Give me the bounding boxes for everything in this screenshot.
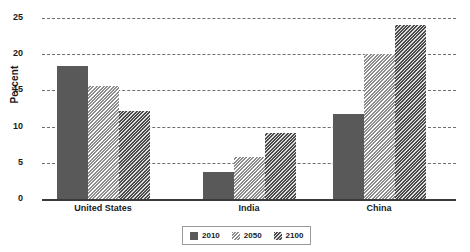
bar-india-2050 — [234, 157, 265, 199]
legend-item-2100[interactable]: 2100 — [274, 232, 304, 240]
y-axis-tick-label: 5 — [1, 158, 23, 167]
legend-label: 2100 — [286, 232, 304, 240]
bar-united-states-2050 — [88, 86, 119, 199]
chart-legend: 201020502100 — [182, 226, 311, 245]
x-axis-line — [42, 199, 456, 201]
legend-label: 2010 — [202, 232, 220, 240]
legend-item-2050[interactable]: 2050 — [232, 232, 262, 240]
x-axis-category-label: United States — [57, 203, 150, 213]
bar-india-2010 — [203, 172, 234, 200]
plot-area — [42, 18, 456, 199]
legend-label: 2050 — [244, 232, 262, 240]
bar-chart: Percent 0510152025 United StatesIndiaChi… — [0, 0, 470, 252]
bar-group — [57, 18, 150, 199]
bar-group — [333, 18, 426, 199]
x-axis-category-label: China — [333, 203, 426, 213]
y-axis-tick-label: 25 — [1, 13, 23, 22]
bar-india-2100 — [265, 133, 296, 199]
legend-swatch-icon — [232, 232, 240, 240]
y-axis-tick-label: 20 — [1, 49, 23, 58]
bar-china-2050 — [364, 54, 395, 199]
bar-china-2100 — [395, 25, 426, 199]
y-axis-tick-label: 0 — [1, 194, 23, 203]
legend-item-2010[interactable]: 2010 — [190, 232, 220, 240]
bar-china-2010 — [333, 114, 364, 199]
legend-swatch-icon — [274, 232, 282, 240]
bar-united-states-2010 — [57, 66, 88, 199]
legend-swatch-icon — [190, 232, 198, 240]
bar-group — [203, 18, 296, 199]
y-axis-tick-label: 15 — [1, 85, 23, 94]
y-axis-tick-label: 10 — [1, 122, 23, 131]
x-axis-category-label: India — [203, 203, 296, 213]
bar-united-states-2100 — [119, 111, 150, 199]
bars-layer — [42, 18, 456, 199]
